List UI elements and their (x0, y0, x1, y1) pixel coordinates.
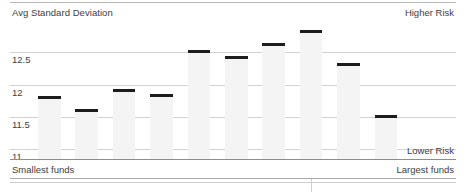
x-axis-line (10, 159, 456, 160)
bar-column (337, 63, 360, 159)
bar-value-marker (300, 30, 323, 33)
y-tick-label-12.5: 12.5 (12, 54, 34, 65)
bar-column (150, 94, 173, 159)
bar-column (75, 109, 98, 159)
smallest-funds-label: Smallest funds (12, 164, 74, 175)
bar-value-marker (188, 50, 211, 53)
bar-column (113, 89, 136, 159)
lower-risk-label: Lower Risk (407, 145, 454, 156)
bar-column (262, 43, 285, 159)
bar-value-marker (38, 96, 61, 99)
y-tick-label-11: 11 (12, 151, 25, 162)
higher-risk-label: Higher Risk (405, 7, 454, 18)
bars-group (10, 20, 456, 159)
bar-value-marker (113, 89, 136, 92)
bar-column (188, 50, 211, 159)
bar-value-marker (337, 63, 360, 66)
bar-column (300, 30, 323, 159)
bar-column (38, 96, 61, 159)
bottom-edge-rule (10, 182, 456, 183)
top-rule (10, 2, 456, 3)
bar-column (375, 115, 398, 159)
chart-footer: Smallest funds Largest funds (12, 164, 454, 177)
y-tick-label-11.5: 11.5 (12, 119, 33, 130)
avg-standard-deviation-chart: Avg Standard Deviation Higher Risk 12.51… (0, 0, 466, 192)
bar-value-marker (75, 109, 98, 112)
footer-vertical-divider (311, 179, 312, 192)
bar-value-marker (262, 43, 285, 46)
y-tick-label-12: 12 (12, 87, 26, 98)
bar-value-marker (150, 94, 173, 97)
plot-area: 12.51211.511 (10, 20, 456, 159)
bar-value-marker (225, 56, 248, 59)
chart-header: Avg Standard Deviation Higher Risk (12, 7, 454, 20)
footer-rule (10, 178, 456, 179)
chart-axis-title: Avg Standard Deviation (12, 7, 113, 18)
largest-funds-label: Largest funds (396, 164, 454, 175)
bar-column (225, 56, 248, 159)
bar-value-marker (375, 115, 398, 118)
